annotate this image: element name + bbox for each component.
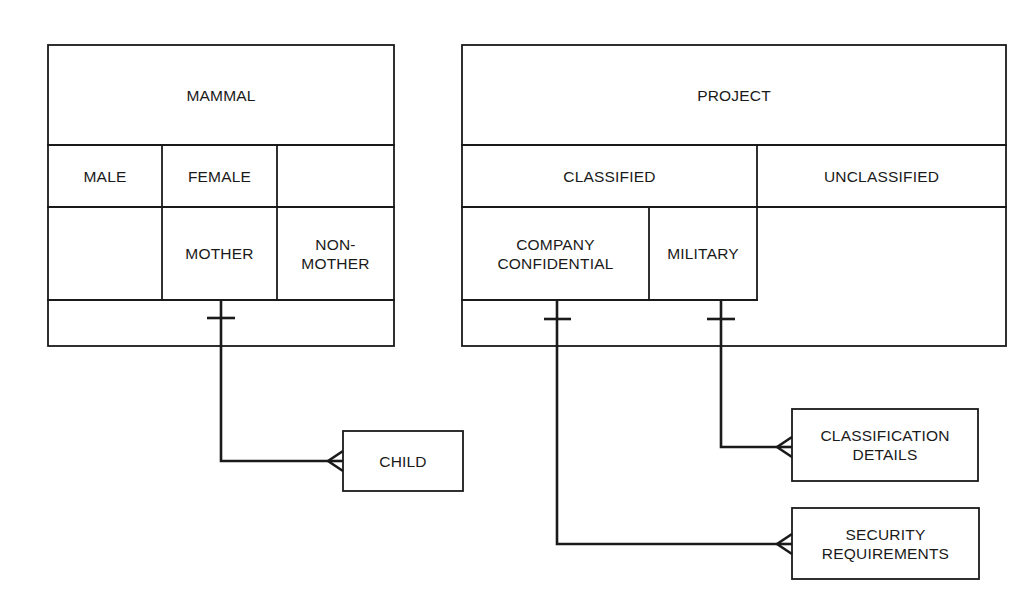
project-subtype-company-confidential: COMPANY CONFIDENTIAL: [462, 207, 649, 300]
crows-foot-many-icon: [777, 437, 792, 457]
child-title: CHILD: [343, 431, 463, 491]
project-title: PROJECT: [462, 45, 1006, 145]
project-subtype-unclassified: UNCLASSIFIED: [757, 145, 1006, 207]
project-subtype-military: MILITARY: [649, 207, 757, 300]
relationship-military-classification-details[interactable]: [707, 301, 792, 457]
crows-foot-many-icon: [777, 534, 792, 554]
mammal-subtype-mother: MOTHER: [162, 207, 277, 300]
mammal-subtype-empty: [277, 145, 394, 207]
security-requirements-title: SECURITY REQUIREMENTS: [792, 508, 979, 579]
mammal-subtype-non-mother: NON- MOTHER: [277, 207, 394, 300]
crows-foot-many-icon: [328, 451, 343, 471]
classification-details-title: CLASSIFICATION DETAILS: [792, 409, 978, 481]
mammal-subtype-blank: [48, 207, 162, 300]
mammal-subtype-male: MALE: [48, 145, 162, 207]
relationship-company-confidential-security-requirements[interactable]: [544, 301, 792, 554]
mammal-subtype-female: FEMALE: [162, 145, 277, 207]
project-subtype-classified: CLASSIFIED: [462, 145, 757, 207]
relationship-mother-child[interactable]: [207, 301, 343, 471]
mammal-title: MAMMAL: [48, 45, 394, 145]
